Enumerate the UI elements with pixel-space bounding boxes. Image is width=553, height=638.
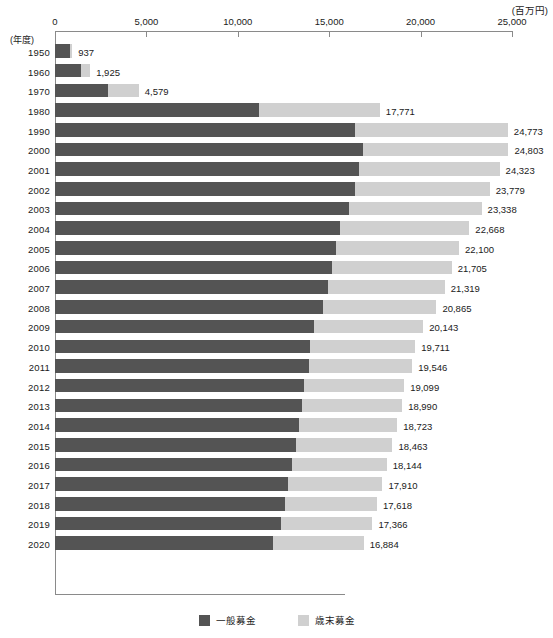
stacked-bar[interactable] (55, 399, 402, 413)
bar-segment-yearend[interactable] (299, 418, 397, 432)
bar-segment-general[interactable] (55, 241, 336, 255)
bar-segment-general[interactable] (55, 517, 281, 531)
bar-segment-yearend[interactable] (332, 261, 451, 275)
legend-swatch-icon (199, 615, 210, 626)
bar-segment-general[interactable] (55, 221, 340, 235)
bar-segment-general[interactable] (55, 320, 314, 334)
bar-segment-yearend[interactable] (340, 221, 469, 235)
bar-segment-yearend[interactable] (273, 536, 364, 550)
bar-segment-general[interactable] (55, 202, 349, 216)
stacked-bar[interactable] (55, 64, 90, 78)
stacked-bar[interactable] (55, 123, 508, 137)
bar-segment-yearend[interactable] (70, 44, 72, 58)
stacked-bar[interactable] (55, 143, 508, 157)
stacked-bar[interactable] (55, 261, 452, 275)
legend-item[interactable]: 一般募金 (199, 613, 256, 627)
bar-segment-general[interactable] (55, 103, 259, 117)
stacked-bar[interactable] (55, 202, 482, 216)
bar-segment-general[interactable] (55, 418, 299, 432)
bar-segment-yearend[interactable] (302, 399, 402, 413)
stacked-bar[interactable] (55, 536, 364, 550)
bar-segment-yearend[interactable] (259, 103, 380, 117)
bar-segment-yearend[interactable] (108, 84, 139, 98)
stacked-bar[interactable] (55, 379, 404, 393)
bar-segment-yearend[interactable] (281, 517, 372, 531)
bar-segment-general[interactable] (55, 280, 328, 294)
stacked-bar[interactable] (55, 241, 459, 255)
stacked-bar[interactable] (55, 280, 445, 294)
stacked-bar[interactable] (55, 320, 423, 334)
bar-segment-yearend[interactable] (304, 379, 405, 393)
bar-total-label: 24,773 (514, 125, 543, 136)
stacked-bar[interactable] (55, 517, 372, 531)
bar-segment-yearend[interactable] (355, 182, 490, 196)
row-year-label: 2009 (0, 322, 50, 333)
bar-segment-yearend[interactable] (336, 241, 459, 255)
bar-segment-yearend[interactable] (309, 359, 413, 373)
stacked-bar[interactable] (55, 458, 387, 472)
bar-row: 200522,100 (0, 239, 553, 259)
bar-row: 201318,990 (0, 396, 553, 416)
bar-segment-yearend[interactable] (359, 162, 499, 176)
bar-segment-general[interactable] (55, 64, 81, 78)
bar-segment-yearend[interactable] (285, 497, 377, 511)
bar-segment-general[interactable] (55, 123, 355, 137)
stacked-bar[interactable] (55, 300, 436, 314)
bar-segment-yearend[interactable] (328, 280, 444, 294)
stacked-bar[interactable] (55, 497, 377, 511)
bar-row: 198017,771 (0, 101, 553, 121)
stacked-bar[interactable] (55, 44, 72, 58)
bar-segment-yearend[interactable] (296, 438, 393, 452)
stacked-bar[interactable] (55, 103, 380, 117)
bar-segment-general[interactable] (55, 399, 302, 413)
stacked-bar[interactable] (55, 359, 412, 373)
bar-segment-general[interactable] (55, 44, 70, 58)
stacked-bar[interactable] (55, 84, 139, 98)
x-axis-tick (512, 31, 513, 37)
bar-segment-general[interactable] (55, 162, 359, 176)
bar-total-label: 18,723 (403, 420, 432, 431)
bar-segment-general[interactable] (55, 359, 309, 373)
stacked-bar[interactable] (55, 221, 469, 235)
stacked-bar[interactable] (55, 182, 490, 196)
bar-segment-general[interactable] (55, 340, 310, 354)
stacked-bar[interactable] (55, 162, 500, 176)
bar-segment-general[interactable] (55, 497, 285, 511)
bar-total-label: 23,338 (488, 204, 517, 215)
bar-segment-general[interactable] (55, 182, 355, 196)
bar-segment-general[interactable] (55, 536, 273, 550)
stacked-bar[interactable] (55, 438, 393, 452)
bar-segment-yearend[interactable] (314, 320, 423, 334)
bar-row: 201917,366 (0, 515, 553, 535)
legend-label: 歳末募金 (315, 613, 355, 627)
bar-segment-general[interactable] (55, 143, 363, 157)
bar-segment-general[interactable] (55, 261, 332, 275)
bar-segment-yearend[interactable] (349, 202, 482, 216)
bar-row: 199024,773 (0, 121, 553, 141)
row-year-label: 2020 (0, 539, 50, 550)
bar-total-label: 17,618 (383, 499, 412, 510)
chart-legend: 一般募金歳末募金 (0, 613, 553, 627)
bar-total-label: 4,579 (145, 86, 169, 97)
row-year-label: 2002 (0, 184, 50, 195)
bar-segment-general[interactable] (55, 458, 292, 472)
bar-segment-general[interactable] (55, 84, 108, 98)
bar-segment-general[interactable] (55, 438, 296, 452)
legend-label: 一般募金 (216, 613, 256, 627)
bar-segment-general[interactable] (55, 379, 304, 393)
stacked-bar[interactable] (55, 418, 397, 432)
legend-item[interactable]: 歳末募金 (298, 613, 355, 627)
bar-segment-yearend[interactable] (355, 123, 508, 137)
bar-segment-yearend[interactable] (81, 64, 90, 78)
bar-segment-general[interactable] (55, 477, 288, 491)
bar-segment-yearend[interactable] (292, 458, 387, 472)
stacked-bar[interactable] (55, 340, 415, 354)
row-year-label: 2013 (0, 401, 50, 412)
bar-segment-yearend[interactable] (310, 340, 415, 354)
bar-segment-yearend[interactable] (323, 300, 436, 314)
stacked-bar[interactable] (55, 477, 382, 491)
bar-segment-yearend[interactable] (363, 143, 508, 157)
bar-segment-general[interactable] (55, 300, 323, 314)
bar-segment-yearend[interactable] (288, 477, 382, 491)
row-year-label: 2017 (0, 479, 50, 490)
